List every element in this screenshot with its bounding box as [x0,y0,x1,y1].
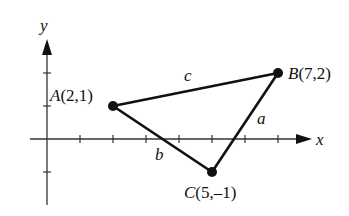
side-b-label: b [155,145,164,164]
side-c-label: c [184,66,192,85]
point-a-coords: (2,1) [60,86,93,105]
side-a [212,73,278,172]
point-c-coords: (5,–1) [195,183,236,202]
point-a-name: A [49,86,61,105]
x-axis-label: x [315,130,324,149]
point-b-label: B(7,2) [288,64,331,83]
point-c-label: C(5,–1) [184,183,236,202]
side-c [113,73,278,106]
point-a [108,101,118,111]
point-a-label: A(2,1) [49,86,93,105]
point-b [273,68,283,78]
point-b-coords: (7,2) [298,64,331,83]
point-b-name: B [288,64,299,83]
x-axis-arrow-icon [296,134,312,144]
point-c-name: C [184,183,196,202]
y-axis-label: y [38,16,48,35]
triangle-diagram: x y c a b A(2,1) B(7,2) C(5,–1) [0,0,349,216]
point-c [207,167,217,177]
y-axis-arrow-icon [42,39,52,55]
side-a-label: a [257,109,266,128]
